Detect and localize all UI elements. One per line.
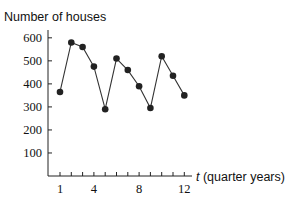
- y-tick-label: 400: [23, 77, 42, 91]
- y-tick-label: 300: [23, 100, 42, 114]
- data-point: [68, 39, 75, 46]
- x-tick-label: 12: [178, 182, 191, 196]
- x-tick-label: 1: [57, 182, 63, 196]
- data-point: [147, 105, 154, 112]
- x-axis-unit: (quarter years): [199, 170, 284, 184]
- y-tick-label: 600: [23, 31, 42, 45]
- data-points: [57, 39, 188, 112]
- data-line: [60, 42, 184, 109]
- x-tick-label: 8: [136, 182, 142, 196]
- data-point: [125, 67, 132, 74]
- data-point: [57, 89, 64, 96]
- data-point: [170, 73, 177, 80]
- line-chart: Number of houses 100200300400500600 1481…: [0, 0, 292, 207]
- data-point: [136, 83, 143, 90]
- y-tick-label: 200: [23, 123, 42, 137]
- data-point: [158, 53, 165, 60]
- data-point: [91, 63, 98, 70]
- data-point: [181, 92, 188, 99]
- y-tick-label: 500: [23, 54, 42, 68]
- y-tick-label: 100: [23, 146, 42, 160]
- data-point: [79, 44, 86, 51]
- x-tick-label: 4: [91, 182, 98, 196]
- x-axis-label: t (quarter years): [196, 170, 285, 184]
- data-point: [102, 106, 109, 113]
- data-point: [113, 55, 120, 62]
- y-axis-label: Number of houses: [4, 10, 106, 24]
